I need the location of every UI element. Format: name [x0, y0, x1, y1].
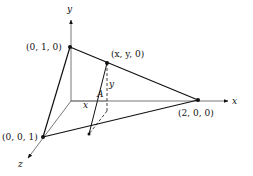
point-010: [68, 45, 72, 49]
height-label: y: [108, 79, 115, 89]
z-axis-label: z: [17, 159, 23, 169]
label-200: (2, 0, 0): [178, 108, 214, 118]
points: [41, 45, 200, 139]
label-001: (0, 0, 1): [2, 132, 38, 142]
label-010: (0, 1, 0): [26, 42, 62, 52]
point-front: [88, 133, 91, 136]
z-axis: [28, 101, 71, 158]
x-axis-label: x: [232, 96, 237, 106]
base-label: x: [83, 100, 88, 110]
point-200: [196, 98, 200, 102]
point-xy0: [105, 61, 109, 65]
coordinate-diagram: y x z (0, 1, 0) (x, y, 0) (2, 0, 0) (0, …: [0, 0, 253, 176]
y-axis-label: y: [66, 4, 73, 14]
area-label: A: [96, 89, 104, 99]
edge-001-200: [43, 100, 198, 137]
labels: y x z (0, 1, 0) (x, y, 0) (2, 0, 0) (0, …: [2, 4, 237, 169]
edge-010-001: [43, 47, 70, 137]
tetrahedron-edges: [43, 47, 198, 137]
label-xy0: (x, y, 0): [111, 49, 144, 59]
point-001: [41, 135, 45, 139]
